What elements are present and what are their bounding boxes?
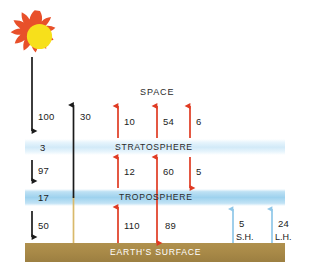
value-50: 50: [38, 221, 49, 231]
earth-surface-label: EARTH'S SURFACE: [110, 248, 201, 257]
latent-heat-label: L.H.: [275, 233, 292, 242]
value-110: 110: [124, 221, 140, 231]
space-label: SPACE: [140, 88, 174, 97]
value-60: 60: [163, 167, 174, 177]
value-12: 12: [124, 167, 135, 177]
troposphere-label: TROPOSPHERE: [119, 193, 193, 202]
value-5-sensible-heat: 5: [239, 219, 244, 229]
value-30: 30: [80, 112, 91, 122]
value-5-stratosphere: 5: [196, 167, 201, 177]
value-54: 54: [163, 117, 174, 127]
value-6: 6: [196, 117, 201, 127]
energy-budget-diagram: SPACE STRATOSPHERE TROPOSPHERE EARTH'S S…: [0, 0, 315, 270]
value-3: 3: [40, 143, 45, 153]
stratosphere-label: STRATOSPHERE: [115, 143, 193, 152]
sun-icon: [11, 10, 56, 52]
sun-disk: [27, 24, 52, 49]
value-97: 97: [38, 166, 49, 176]
value-100: 100: [38, 112, 54, 122]
value-24-latent-heat: 24: [278, 219, 289, 229]
sensible-heat-label: S.H.: [236, 233, 254, 242]
value-10: 10: [124, 117, 135, 127]
value-89: 89: [165, 221, 176, 231]
value-17: 17: [38, 193, 49, 203]
